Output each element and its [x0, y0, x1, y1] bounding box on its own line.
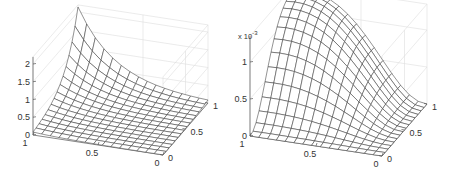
y-tick-label: 0: [168, 153, 173, 163]
z-tick-label: 2: [25, 59, 30, 69]
x-tick-label: 0.5: [304, 149, 317, 159]
figure: 00.511.5210.5000.51 00.5110.5000.51 x 10…: [0, 0, 450, 177]
z-tick-label: 1.5: [17, 77, 30, 87]
z-tick-label: 1: [242, 57, 247, 67]
x-tick-label: 0: [154, 158, 159, 168]
x-tick-label: 1: [239, 139, 244, 149]
z-tick-label: 0.5: [234, 94, 247, 104]
x-tick-label: 0.5: [86, 148, 99, 158]
y-tick-label: 0: [387, 154, 392, 164]
y-tick-label: 1: [213, 101, 218, 111]
z-exponent-label: x 10-3: [238, 30, 258, 41]
z-tick-label: 1: [25, 95, 30, 105]
y-tick-label: 1: [432, 102, 437, 112]
wireframe-mesh-right: [250, 0, 427, 156]
x-tick-label: 1: [22, 138, 27, 148]
surface-plots: 00.511.5210.5000.51 00.5110.5000.51 x 10…: [0, 0, 450, 177]
y-tick-label: 0.5: [191, 127, 204, 137]
surface-plot-left: 00.511.5210.5000.51: [17, 5, 218, 168]
surface-plot-right: 00.5110.5000.51: [234, 0, 437, 169]
x-tick-label: 0: [373, 159, 378, 169]
z-tick-label: 0.5: [17, 112, 30, 122]
y-tick-label: 0.5: [410, 128, 423, 138]
